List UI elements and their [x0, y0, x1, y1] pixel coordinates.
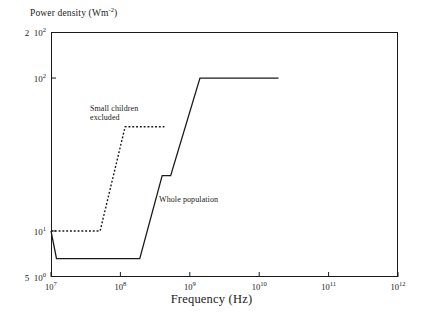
x-axis-title-text: Frequency (Hz) [171, 292, 253, 306]
x-axis-title: Frequency (Hz) [0, 292, 423, 307]
x-tick-label: 108 [114, 280, 126, 292]
chart-annotation: Small children excluded [90, 105, 138, 123]
series-line [51, 78, 279, 259]
chart-figure: Power density (Wm-2) 2 1021021015 100 10… [0, 0, 423, 318]
plot-canvas [0, 0, 423, 318]
x-tick-label: 1012 [390, 280, 405, 292]
series-line [51, 127, 164, 231]
x-tick-label: 109 [184, 280, 196, 292]
y-tick-label: 2 102 [8, 26, 46, 38]
y-tick-label: 101 [8, 225, 46, 237]
y-tick-label: 102 [8, 72, 46, 84]
x-tick-label: 1010 [252, 280, 267, 292]
chart-annotation: Whole population [159, 196, 218, 205]
series-layer [51, 78, 279, 259]
x-tick-label: 1011 [321, 280, 336, 292]
y-tick-label: 5 100 [8, 271, 46, 283]
x-tick-label: 107 [45, 280, 57, 292]
